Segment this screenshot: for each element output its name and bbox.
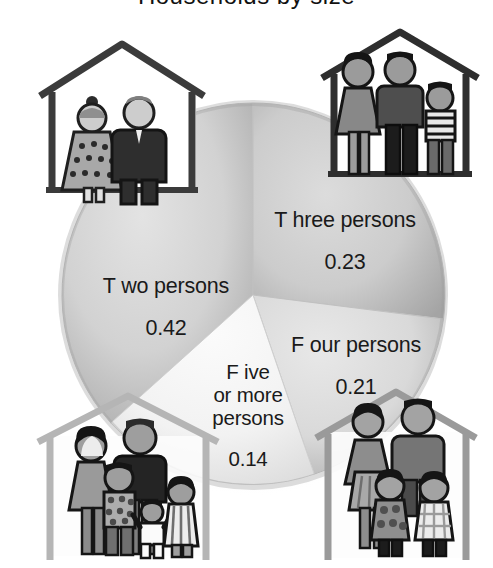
pie-label-two-persons-value: 0.42 <box>78 316 254 340</box>
pie-label-three-persons-value: 0.23 <box>252 250 438 274</box>
pie-label-three-persons-name: T hree persons <box>252 208 438 232</box>
pie-label-five-or-more-persons-value: 0.14 <box>192 448 304 471</box>
pie-label-three-persons: T hree persons 0.23 <box>252 190 438 292</box>
pie-label-five-or-more-persons: F ive or more persons 0.14 <box>192 343 304 489</box>
chart-figure: Households by size <box>0 0 493 568</box>
house-two-persons[interactable] <box>40 44 204 204</box>
pie-label-five-or-more-persons-name: F ive or more persons <box>192 361 304 430</box>
pie-label-two-persons-name: T wo persons <box>78 274 254 298</box>
house-three-persons[interactable] <box>322 32 478 176</box>
